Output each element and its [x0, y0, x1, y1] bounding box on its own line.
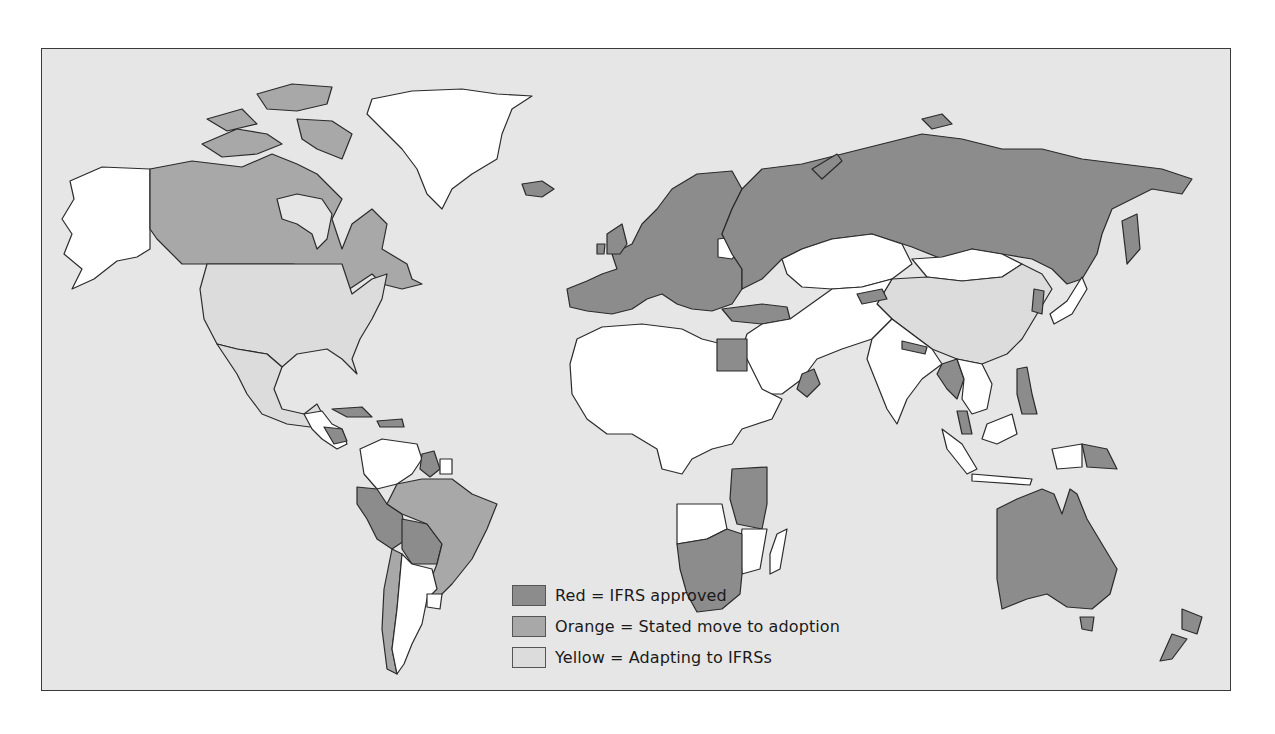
region-alaska	[62, 167, 150, 289]
region-indochina	[957, 359, 992, 414]
region-europe	[567, 171, 742, 314]
region-greenland	[367, 89, 532, 209]
region-new-zealand	[1160, 609, 1202, 661]
map-frame: Red = IFRS approved Orange = Stated move…	[41, 48, 1231, 691]
legend-swatch-orange	[512, 616, 546, 637]
region-tasmania	[1080, 617, 1094, 631]
legend-swatch-yellow	[512, 647, 546, 668]
legend-label: Orange = Stated move to adoption	[555, 617, 840, 636]
region-egypt	[717, 339, 747, 371]
legend-item-yellow: Yellow = Adapting to IFRSs	[512, 642, 840, 673]
legend-item-orange: Orange = Stated move to adoption	[512, 611, 840, 642]
region-suriname	[440, 459, 452, 474]
region-png	[1082, 444, 1117, 469]
legend-label: Red = IFRS approved	[555, 586, 727, 605]
region-madagascar	[770, 529, 787, 574]
legend-label: Yellow = Adapting to IFRSs	[555, 648, 772, 667]
region-korea	[1032, 289, 1044, 314]
region-malaysia	[957, 411, 972, 434]
region-canadian-arctic	[202, 84, 352, 159]
legend-swatch-red	[512, 585, 546, 606]
region-uruguay	[427, 594, 442, 609]
legend-item-red: Red = IFRS approved	[512, 580, 840, 611]
region-uk	[597, 224, 627, 254]
region-australia	[997, 489, 1117, 609]
region-philippines	[1017, 367, 1037, 414]
map-legend: Red = IFRS approved Orange = Stated move…	[512, 580, 840, 673]
region-iceland	[522, 181, 554, 197]
region-east-africa	[730, 467, 767, 529]
region-guyana	[420, 451, 440, 477]
region-caribbean	[332, 407, 404, 427]
